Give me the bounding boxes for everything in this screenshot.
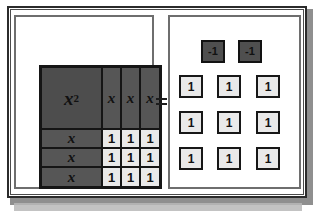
algebra-tiles-figure: x2 x x x x x x 1 1 1 1 1 1 1 1 1 [0, 0, 315, 214]
tile-x-horizontal-1[interactable]: x [41, 129, 102, 148]
tile-unit-r3c2[interactable]: 1 [121, 167, 140, 187]
equals-bar-top [156, 98, 167, 100]
equals-sign [156, 96, 167, 108]
tile-unit-r3c3[interactable]: 1 [140, 167, 160, 187]
tile-unit-r1c1[interactable]: 1 [102, 129, 121, 148]
tile-unit-r1c2[interactable]: 1 [121, 129, 140, 148]
tile-x-squared[interactable]: x2 [41, 67, 102, 129]
tile-x-horizontal-2[interactable]: x [41, 148, 102, 167]
tile-unit-r2c3[interactable]: 1 [140, 148, 160, 167]
counter-negative-2[interactable]: -1 [238, 40, 262, 63]
counter-positive-r2c3[interactable]: 1 [256, 111, 280, 134]
counter-positive-r3c3[interactable]: 1 [256, 147, 280, 170]
tile-x-vertical-2[interactable]: x [121, 67, 140, 129]
counter-positive-r1c3[interactable]: 1 [256, 75, 280, 98]
counter-positive-r2c1[interactable]: 1 [179, 111, 203, 134]
tile-x-horizontal-3[interactable]: x [41, 167, 102, 187]
counter-positive-r1c2[interactable]: 1 [217, 75, 241, 98]
tile-unit-r2c2[interactable]: 1 [121, 148, 140, 167]
page-edge-smudge [14, 203, 302, 211]
counter-positive-r2c2[interactable]: 1 [217, 111, 241, 134]
counter-positive-r1c1[interactable]: 1 [179, 75, 203, 98]
counter-positive-r3c1[interactable]: 1 [179, 147, 203, 170]
tile-unit-r2c1[interactable]: 1 [102, 148, 121, 167]
tile-mat: x2 x x x x x x 1 1 1 1 1 1 1 1 1 [39, 65, 162, 189]
counter-negative-1[interactable]: -1 [201, 40, 225, 63]
tile-unit-r3c1[interactable]: 1 [102, 167, 121, 187]
equals-bar-bottom [156, 103, 167, 105]
tile-x-squared-base: x [64, 89, 74, 108]
right-panel-counters: -1 -1 1 1 1 1 1 1 1 1 1 [168, 15, 301, 189]
tile-unit-r1c3[interactable]: 1 [140, 129, 160, 148]
tile-x-vertical-1[interactable]: x [102, 67, 121, 129]
counter-positive-r3c2[interactable]: 1 [217, 147, 241, 170]
left-panel-area-model: x2 x x x x x x 1 1 1 1 1 1 1 1 1 [14, 15, 154, 189]
